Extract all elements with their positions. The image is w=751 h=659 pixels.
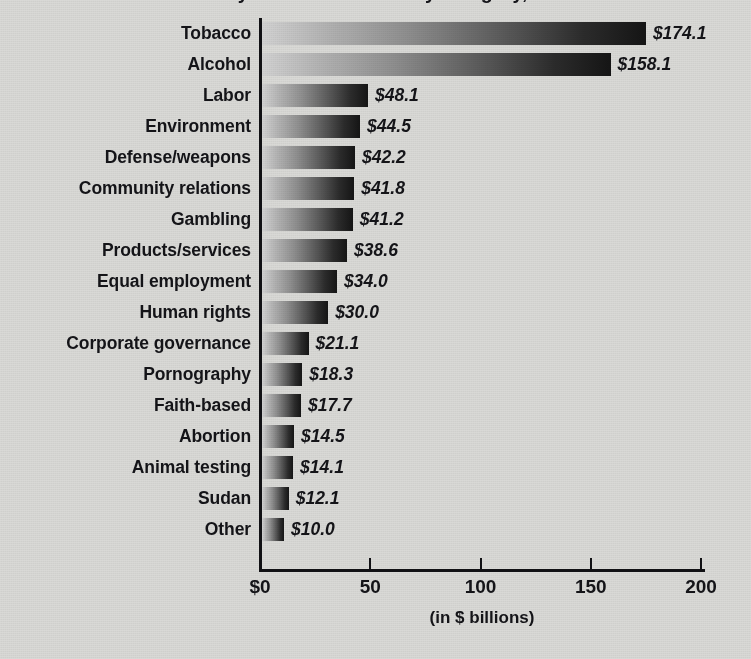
category-label: Gambling: [0, 204, 251, 235]
bar: [262, 177, 354, 200]
x-axis-line: [259, 569, 705, 572]
category-label: Community relations: [0, 173, 251, 204]
bar: [262, 22, 646, 45]
category-label: Products/services: [0, 235, 251, 266]
y-axis-line: [259, 18, 262, 570]
x-tick-mark: [590, 558, 592, 570]
bar: [262, 146, 355, 169]
category-label: Animal testing: [0, 452, 251, 483]
bar-row: Corporate governance$21.1: [0, 328, 751, 359]
plot-area: Tobacco$174.1Alcohol$158.1Labor$48.1Envi…: [0, 18, 751, 571]
bar-row: Products/services$38.6: [0, 235, 751, 266]
x-tick-label: $0: [220, 576, 300, 598]
bar-row: Animal testing$14.1: [0, 452, 751, 483]
bar-row: Community relations$41.8: [0, 173, 751, 204]
bar-row: Defense/weapons$42.2: [0, 142, 751, 173]
category-label: Faith-based: [0, 390, 251, 421]
category-label: Human rights: [0, 297, 251, 328]
bar-row: Abortion$14.5: [0, 421, 751, 452]
bar-value-label: $30.0: [328, 297, 379, 328]
bar: [262, 394, 301, 417]
bar-value-label: $34.0: [337, 266, 388, 297]
bar: [262, 239, 347, 262]
bar-row: Pornography$18.3: [0, 359, 751, 390]
x-tick-label: 50: [330, 576, 410, 598]
bar: [262, 518, 284, 541]
category-label: Environment: [0, 111, 251, 142]
bar: [262, 425, 294, 448]
chart-title: Socially screened assets by category, 20…: [0, 0, 751, 5]
category-label: Tobacco: [0, 18, 251, 49]
category-label: Abortion: [0, 421, 251, 452]
bar: [262, 301, 328, 324]
bar-row: Faith-based$17.7: [0, 390, 751, 421]
chart-figure: Socially screened assets by category, 20…: [0, 0, 751, 659]
x-tick-label: 100: [441, 576, 521, 598]
x-axis-title: (in $ billions): [259, 608, 705, 628]
bar-row: Sudan$12.1: [0, 483, 751, 514]
category-label: Pornography: [0, 359, 251, 390]
bar: [262, 332, 309, 355]
bar-value-label: $12.1: [289, 483, 340, 514]
bar: [262, 363, 302, 386]
bar-row: Gambling$41.2: [0, 204, 751, 235]
category-label: Corporate governance: [0, 328, 251, 359]
bar-row: Labor$48.1: [0, 80, 751, 111]
bar-value-label: $10.0: [284, 514, 335, 545]
x-tick-label: 150: [551, 576, 631, 598]
bar-value-label: $18.3: [302, 359, 353, 390]
bar-value-label: $41.2: [353, 204, 404, 235]
bar-row: Human rights$30.0: [0, 297, 751, 328]
bar: [262, 53, 611, 76]
bar-row: Environment$44.5: [0, 111, 751, 142]
bar-value-label: $42.2: [355, 142, 406, 173]
bar-value-label: $38.6: [347, 235, 398, 266]
bar: [262, 270, 337, 293]
bar: [262, 208, 353, 231]
x-tick-label: 200: [661, 576, 741, 598]
bar-row: Tobacco$174.1: [0, 18, 751, 49]
bar-value-label: $41.8: [354, 173, 405, 204]
category-label: Labor: [0, 80, 251, 111]
category-label: Alcohol: [0, 49, 251, 80]
bar: [262, 487, 289, 510]
bar-value-label: $14.1: [293, 452, 344, 483]
category-label: Sudan: [0, 483, 251, 514]
bar: [262, 115, 360, 138]
bar-value-label: $14.5: [294, 421, 345, 452]
category-label: Defense/weapons: [0, 142, 251, 173]
x-tick-mark: [369, 558, 371, 570]
bar-row: Alcohol$158.1: [0, 49, 751, 80]
x-tick-mark: [700, 558, 702, 570]
category-label: Equal employment: [0, 266, 251, 297]
bar-value-label: $48.1: [368, 80, 419, 111]
category-label: Other: [0, 514, 251, 545]
bar: [262, 84, 368, 107]
x-tick-mark: [480, 558, 482, 570]
bar-value-label: $44.5: [360, 111, 411, 142]
bar-row: Equal employment$34.0: [0, 266, 751, 297]
bar: [262, 456, 293, 479]
bar-row: Other$10.0: [0, 514, 751, 545]
bar-value-label: $21.1: [309, 328, 360, 359]
bar-value-label: $17.7: [301, 390, 352, 421]
bar-value-label: $174.1: [646, 18, 707, 49]
bar-value-label: $158.1: [611, 49, 672, 80]
